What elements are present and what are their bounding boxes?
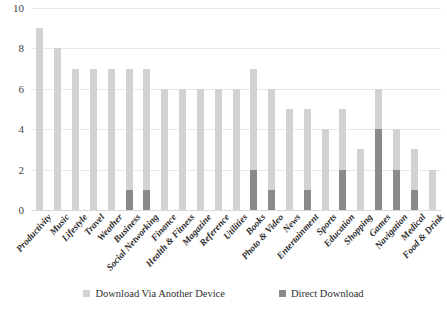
- bar-slot[interactable]: [388, 8, 406, 210]
- chart-legend: Download Via Another DeviceDirect Downlo…: [0, 288, 447, 299]
- gridline-0: [31, 210, 441, 211]
- bar-slot[interactable]: [156, 8, 174, 210]
- bar-slot[interactable]: [84, 8, 102, 210]
- bar-segment-download-via-another-device[interactable]: [108, 69, 115, 210]
- bar-segment-direct-download[interactable]: [304, 190, 311, 210]
- legend-swatch-icon: [279, 290, 286, 297]
- bar-stack[interactable]: [322, 129, 329, 210]
- bar-stack[interactable]: [286, 109, 293, 210]
- bar-slot[interactable]: [423, 8, 441, 210]
- bar-segment-download-via-another-device[interactable]: [54, 48, 61, 210]
- y-tick-label-2: 2: [19, 164, 25, 175]
- bar-stack[interactable]: [72, 69, 79, 210]
- bar-stack[interactable]: [143, 69, 150, 210]
- bar-slot[interactable]: [352, 8, 370, 210]
- bar-slot[interactable]: [209, 8, 227, 210]
- bar-segment-download-via-another-device[interactable]: [304, 109, 311, 190]
- bar-slot[interactable]: [263, 8, 281, 210]
- bar-segment-download-via-another-device[interactable]: [268, 89, 275, 190]
- bar-stack[interactable]: [126, 69, 133, 210]
- bar-stack[interactable]: [215, 89, 222, 210]
- bar-segment-download-via-another-device[interactable]: [357, 149, 364, 210]
- bar-segment-direct-download[interactable]: [339, 170, 346, 210]
- bar-stack[interactable]: [90, 69, 97, 210]
- bar-slot[interactable]: [370, 8, 388, 210]
- bar-slot[interactable]: [31, 8, 49, 210]
- bar-segment-download-via-another-device[interactable]: [411, 149, 418, 189]
- bar-segment-download-via-another-device[interactable]: [143, 69, 150, 190]
- bar-slot[interactable]: [49, 8, 67, 210]
- bar-stack[interactable]: [339, 109, 346, 210]
- bar-slot[interactable]: [120, 8, 138, 210]
- bar-stack[interactable]: [54, 48, 61, 210]
- bar-segment-download-via-another-device[interactable]: [197, 89, 204, 210]
- bar-segment-download-via-another-device[interactable]: [215, 89, 222, 210]
- bar-stack[interactable]: [108, 69, 115, 210]
- y-tick-label-0: 0: [19, 205, 25, 216]
- bar-segment-download-via-another-device[interactable]: [339, 109, 346, 170]
- legend-label: Download Via Another Device: [95, 288, 225, 299]
- legend-item[interactable]: Direct Download: [279, 288, 364, 299]
- y-tick-label-10: 10: [13, 3, 24, 14]
- bar-stack[interactable]: [375, 89, 382, 210]
- bar-segment-download-via-another-device[interactable]: [90, 69, 97, 210]
- y-axis: 0246810: [0, 8, 28, 210]
- bar-segment-download-via-another-device[interactable]: [233, 89, 240, 210]
- bar-stack[interactable]: [429, 170, 436, 210]
- legend-item[interactable]: Download Via Another Device: [83, 288, 225, 299]
- bar-segment-download-via-another-device[interactable]: [161, 89, 168, 210]
- bar-stack[interactable]: [357, 149, 364, 210]
- bar-segment-direct-download[interactable]: [143, 190, 150, 210]
- bar-slot[interactable]: [281, 8, 299, 210]
- bar-segment-direct-download[interactable]: [393, 170, 400, 210]
- bar-slot[interactable]: [67, 8, 85, 210]
- bar-slot[interactable]: [334, 8, 352, 210]
- bar-slot[interactable]: [298, 8, 316, 210]
- bar-stack[interactable]: [393, 129, 400, 210]
- bar-slot[interactable]: [174, 8, 192, 210]
- bar-stack[interactable]: [411, 149, 418, 210]
- bar-segment-download-via-another-device[interactable]: [36, 28, 43, 210]
- bar-stack[interactable]: [250, 69, 257, 210]
- plot-area: [31, 8, 441, 210]
- bar-segment-download-via-another-device[interactable]: [72, 69, 79, 210]
- bar-segment-download-via-another-device[interactable]: [179, 89, 186, 210]
- bar-segment-direct-download[interactable]: [250, 170, 257, 210]
- bar-stack[interactable]: [268, 89, 275, 210]
- bar-slot[interactable]: [227, 8, 245, 210]
- bar-slot[interactable]: [102, 8, 120, 210]
- legend-label: Direct Download: [291, 288, 364, 299]
- bars-layer: [31, 8, 441, 210]
- bar-stack[interactable]: [179, 89, 186, 210]
- y-tick-label-4: 4: [19, 124, 25, 135]
- bar-slot[interactable]: [245, 8, 263, 210]
- bar-slot[interactable]: [405, 8, 423, 210]
- x-axis-labels: ProductivityMusicLifestyleTravelWeatherB…: [31, 212, 441, 284]
- bar-segment-download-via-another-device[interactable]: [429, 170, 436, 210]
- y-tick-label-8: 8: [19, 43, 25, 54]
- bar-segment-download-via-another-device[interactable]: [393, 129, 400, 169]
- bar-segment-download-via-another-device[interactable]: [322, 129, 329, 210]
- legend-swatch-icon: [83, 290, 90, 297]
- bar-slot[interactable]: [316, 8, 334, 210]
- bar-slot[interactable]: [191, 8, 209, 210]
- bar-segment-direct-download[interactable]: [126, 190, 133, 210]
- bar-segment-direct-download[interactable]: [375, 129, 382, 210]
- bar-segment-download-via-another-device[interactable]: [250, 69, 257, 170]
- bar-stack[interactable]: [197, 89, 204, 210]
- y-tick-label-6: 6: [19, 83, 25, 94]
- bar-stack[interactable]: [161, 89, 168, 210]
- bar-segment-direct-download[interactable]: [268, 190, 275, 210]
- stacked-bar-chart: 0246810 ProductivityMusicLifestyleTravel…: [0, 0, 447, 314]
- bar-segment-download-via-another-device[interactable]: [375, 89, 382, 129]
- bar-segment-direct-download[interactable]: [411, 190, 418, 210]
- bar-stack[interactable]: [304, 109, 311, 210]
- x-axis-tick-label: Productivity: [14, 212, 53, 254]
- bar-segment-download-via-another-device[interactable]: [126, 69, 133, 190]
- bar-segment-download-via-another-device[interactable]: [286, 109, 293, 210]
- bar-slot[interactable]: [138, 8, 156, 210]
- bar-stack[interactable]: [36, 28, 43, 210]
- bar-stack[interactable]: [233, 89, 240, 210]
